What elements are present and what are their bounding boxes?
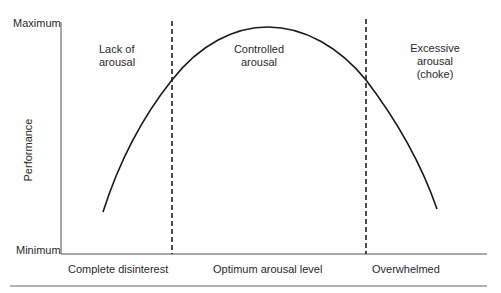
- region-label-line: arousal: [224, 56, 294, 69]
- y-tick-maximum: Maximum: [13, 17, 61, 30]
- y-axis-label: Performance: [22, 119, 34, 182]
- region-controlled-arousal: Controlled arousal: [224, 43, 294, 69]
- x-category-overwhelmed: Overwhelmed: [372, 263, 440, 276]
- x-category-optimum-arousal: Optimum arousal level: [213, 263, 322, 276]
- region-label-line: Excessive: [400, 42, 470, 55]
- region-excessive-arousal: Excessive arousal (choke): [400, 42, 470, 81]
- region-label-line: arousal: [99, 56, 135, 69]
- region-label-line: Lack of: [99, 43, 135, 56]
- region-label-line: Controlled: [224, 43, 294, 56]
- region-label-line: (choke): [400, 68, 470, 81]
- y-tick-minimum: Minimum: [16, 244, 61, 257]
- region-lack-of-arousal: Lack of arousal: [99, 43, 135, 69]
- region-label-line: arousal: [400, 55, 470, 68]
- x-category-complete-disinterest: Complete disinterest: [68, 263, 168, 276]
